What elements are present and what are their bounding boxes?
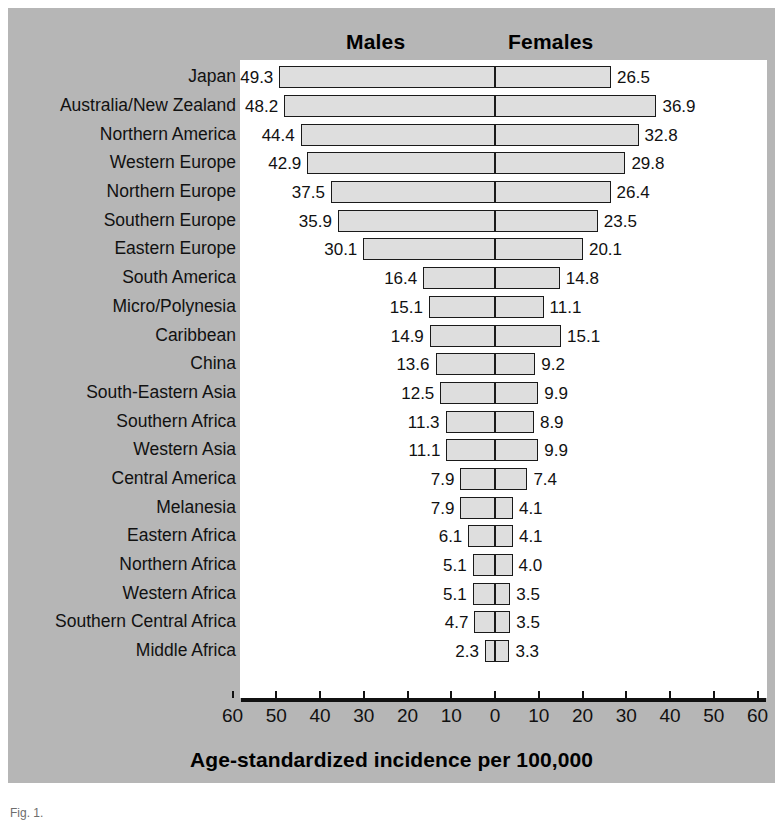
female-value-label: 36.9: [662, 98, 695, 115]
figure-container: Males Females Japan49.326.5Australia/New…: [0, 0, 783, 822]
bar-rows: Japan49.326.5Australia/New Zealand48.236…: [8, 63, 775, 665]
female-value-label: 3.3: [515, 643, 539, 660]
male-value-label: 11.1: [409, 442, 441, 459]
male-value-label: 16.4: [384, 270, 417, 287]
male-value-label: 14.9: [391, 327, 424, 344]
bar-row: Middle Africa2.33.3: [8, 637, 775, 666]
female-value-label: 8.9: [540, 413, 564, 430]
male-bar: [284, 95, 495, 117]
x-axis-tick: [319, 691, 321, 698]
female-value-label: 14.8: [566, 270, 599, 287]
male-bar: [363, 238, 495, 260]
bar-row: Central America7.97.4: [8, 465, 775, 494]
male-bar: [473, 554, 495, 576]
x-axis-tick: [538, 691, 540, 698]
female-bar: [495, 439, 538, 461]
female-bar: [495, 640, 509, 662]
bar-row: South-Eastern Asia12.59.9: [8, 379, 775, 408]
row-bars: 5.14.0: [8, 551, 775, 580]
male-value-label: 42.9: [268, 155, 301, 172]
bar-row: Southern Central Africa4.73.5: [8, 608, 775, 637]
bar-row: Northern Europe37.526.4: [8, 178, 775, 207]
male-value-label: 30.1: [324, 241, 357, 258]
x-axis-tick: [582, 691, 584, 698]
male-bar: [331, 181, 495, 203]
bar-row: Southern Europe35.923.5: [8, 206, 775, 235]
female-bar: [495, 353, 535, 375]
row-bars: 30.120.1: [8, 235, 775, 264]
male-bar: [307, 152, 495, 174]
x-axis-tick: [757, 691, 759, 698]
female-value-label: 20.1: [589, 241, 622, 258]
female-value-label: 3.5: [516, 614, 540, 631]
x-axis-tick: [494, 691, 496, 698]
male-bar: [436, 353, 496, 375]
bar-row: Eastern Africa6.14.1: [8, 522, 775, 551]
male-value-label: 6.1: [439, 528, 463, 545]
female-bar: [495, 468, 527, 490]
x-axis-tick-label: 40: [659, 705, 680, 727]
male-value-label: 49.3: [240, 69, 273, 86]
x-axis-tick-label: 50: [703, 705, 724, 727]
male-value-label: 13.6: [396, 356, 429, 373]
male-value-label: 5.1: [443, 557, 467, 574]
male-bar: [473, 583, 495, 605]
male-bar: [430, 325, 495, 347]
column-headers: Males Females: [8, 30, 775, 60]
male-bar: [429, 296, 495, 318]
bar-row: Western Europe42.929.8: [8, 149, 775, 178]
female-value-label: 26.5: [617, 69, 650, 86]
male-value-label: 7.9: [431, 470, 455, 487]
female-value-label: 4.1: [519, 528, 543, 545]
row-bars: 4.73.5: [8, 608, 775, 637]
female-bar: [495, 497, 513, 519]
female-value-label: 4.1: [519, 499, 543, 516]
x-axis-tick: [450, 691, 452, 698]
row-bars: 5.13.5: [8, 579, 775, 608]
x-axis-tick: [625, 691, 627, 698]
row-bars: 15.111.1: [8, 293, 775, 322]
female-bar: [495, 181, 611, 203]
x-axis-title: Age-standardized incidence per 100,000: [8, 748, 775, 772]
female-value-label: 3.5: [516, 585, 540, 602]
female-value-label: 11.1: [550, 298, 582, 315]
male-bar: [279, 66, 495, 88]
bar-row: Caribbean14.915.1: [8, 321, 775, 350]
row-bars: 7.94.1: [8, 493, 775, 522]
bar-row: Northern America44.432.8: [8, 120, 775, 149]
row-bars: 13.69.2: [8, 350, 775, 379]
x-axis-tick: [669, 691, 671, 698]
bar-row: China13.69.2: [8, 350, 775, 379]
female-bar: [495, 411, 534, 433]
female-bar: [495, 124, 639, 146]
male-value-label: 15.1: [390, 298, 423, 315]
row-bars: 44.432.8: [8, 120, 775, 149]
male-value-label: 48.2: [245, 98, 278, 115]
female-value-label: 9.2: [541, 356, 565, 373]
x-axis-tick-label: 20: [572, 705, 593, 727]
x-axis-line: [241, 698, 766, 702]
x-axis-tick-label: 50: [266, 705, 287, 727]
female-bar: [495, 611, 510, 633]
female-value-label: 15.1: [567, 327, 600, 344]
x-axis-tick-label: 60: [747, 705, 768, 727]
female-bar: [495, 382, 538, 404]
female-value-label: 4.0: [519, 557, 543, 574]
bar-row: Western Africa5.13.5: [8, 579, 775, 608]
female-value-label: 26.4: [617, 184, 650, 201]
chart-panel: Males Females Japan49.326.5Australia/New…: [8, 8, 775, 783]
x-axis-tick: [232, 691, 234, 698]
female-value-label: 23.5: [604, 212, 637, 229]
female-value-label: 29.8: [631, 155, 664, 172]
x-axis: 6050403020100102030405060: [241, 698, 766, 699]
row-bars: 37.526.4: [8, 178, 775, 207]
male-bar: [423, 267, 495, 289]
bar-row: Eastern Europe30.120.1: [8, 235, 775, 264]
x-axis-tick-label: 10: [528, 705, 549, 727]
female-value-label: 9.9: [544, 384, 568, 401]
x-axis-tick-label: 10: [441, 705, 462, 727]
male-bar: [338, 210, 495, 232]
x-axis-tick: [407, 691, 409, 698]
male-bar: [446, 411, 495, 433]
x-axis-tick-label: 30: [353, 705, 374, 727]
